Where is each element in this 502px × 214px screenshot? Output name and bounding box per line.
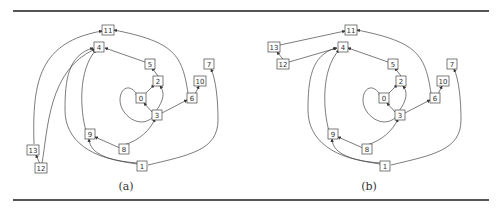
- graph-edge: [277, 52, 283, 59]
- graph-node-0: 0: [379, 93, 389, 103]
- graph-node-10: 10: [437, 76, 449, 86]
- svg-text:1: 1: [140, 163, 144, 171]
- graph-node-11: 11: [102, 25, 114, 35]
- graph-edge: [388, 85, 397, 94]
- graph-node-7: 7: [204, 59, 214, 69]
- svg-text:10: 10: [196, 78, 205, 86]
- graph-node-12: 12: [277, 59, 289, 69]
- graph-node-4: 4: [94, 42, 104, 52]
- svg-text:9: 9: [331, 131, 335, 139]
- svg-text:13: 13: [29, 147, 38, 155]
- graph-edge: [145, 85, 154, 94]
- graph-edge: [124, 119, 155, 145]
- graph-node-1: 1: [137, 161, 147, 171]
- graph-node-2: 2: [396, 76, 406, 86]
- svg-text:3: 3: [155, 112, 159, 120]
- panel-b-graph: 114520361079811312: [268, 25, 461, 171]
- graph-node-6: 6: [187, 93, 197, 103]
- graph-node-3: 3: [152, 110, 162, 120]
- graph-node-5: 5: [388, 59, 398, 69]
- graph-node-0: 0: [136, 93, 146, 103]
- panel-a-graph: 114520361079811312: [27, 25, 218, 173]
- svg-text:2: 2: [399, 78, 403, 86]
- graph-edge: [36, 155, 40, 164]
- graph-edge: [82, 50, 96, 131]
- graph-node-1: 1: [380, 161, 390, 171]
- graph-edge: [325, 50, 339, 131]
- svg-text:12: 12: [279, 61, 288, 69]
- graph-node-10: 10: [194, 76, 206, 86]
- graph-edge: [144, 103, 152, 112]
- svg-text:0: 0: [382, 95, 386, 103]
- graph-node-7: 7: [447, 59, 457, 69]
- graph-node-6: 6: [430, 93, 440, 103]
- panel-a-caption: (a): [118, 180, 133, 193]
- svg-text:13: 13: [270, 44, 279, 52]
- panel-b-caption: (b): [361, 180, 377, 193]
- svg-text:4: 4: [341, 44, 346, 52]
- svg-text:5: 5: [391, 61, 395, 69]
- graph-edge: [338, 137, 363, 148]
- graph-node-9: 9: [328, 129, 338, 139]
- graph-edge: [405, 100, 430, 113]
- graph-node-5: 5: [145, 59, 155, 69]
- graph-edge: [42, 49, 95, 163]
- graph-edge: [289, 48, 337, 62]
- svg-text:6: 6: [433, 95, 438, 103]
- svg-text:7: 7: [207, 61, 211, 69]
- graph-node-8: 8: [362, 144, 372, 154]
- graph-node-3: 3: [395, 110, 405, 120]
- graph-figure: 114520361079811312 114520361079811312: [0, 0, 502, 214]
- svg-text:1: 1: [383, 163, 387, 171]
- svg-text:4: 4: [97, 44, 102, 52]
- svg-text:5: 5: [148, 61, 152, 69]
- svg-text:8: 8: [122, 146, 126, 154]
- svg-text:2: 2: [156, 78, 160, 86]
- svg-text:11: 11: [104, 27, 113, 35]
- graph-edge: [280, 31, 345, 45]
- svg-text:10: 10: [439, 78, 448, 86]
- graph-node-8: 8: [119, 144, 129, 154]
- graph-edge: [367, 119, 398, 145]
- graph-edge: [387, 103, 395, 112]
- graph-edge: [162, 100, 187, 113]
- graph-node-4: 4: [338, 42, 348, 52]
- graph-edge: [348, 48, 388, 62]
- graph-edge: [399, 86, 406, 111]
- svg-text:9: 9: [88, 131, 92, 139]
- svg-text:11: 11: [347, 27, 356, 35]
- graph-edge: [156, 86, 163, 111]
- svg-text:0: 0: [139, 95, 143, 103]
- graph-node-9: 9: [85, 129, 95, 139]
- svg-text:3: 3: [398, 112, 402, 120]
- graph-edge: [95, 137, 120, 148]
- graph-node-2: 2: [153, 76, 163, 86]
- svg-text:8: 8: [365, 146, 369, 154]
- graph-node-13: 13: [27, 145, 39, 155]
- svg-text:12: 12: [37, 165, 46, 173]
- graph-node-13: 13: [268, 42, 280, 52]
- graph-edge: [105, 48, 145, 62]
- svg-text:6: 6: [190, 95, 195, 103]
- svg-text:7: 7: [450, 61, 454, 69]
- graph-node-12: 12: [35, 163, 47, 173]
- graph-node-11: 11: [345, 25, 357, 35]
